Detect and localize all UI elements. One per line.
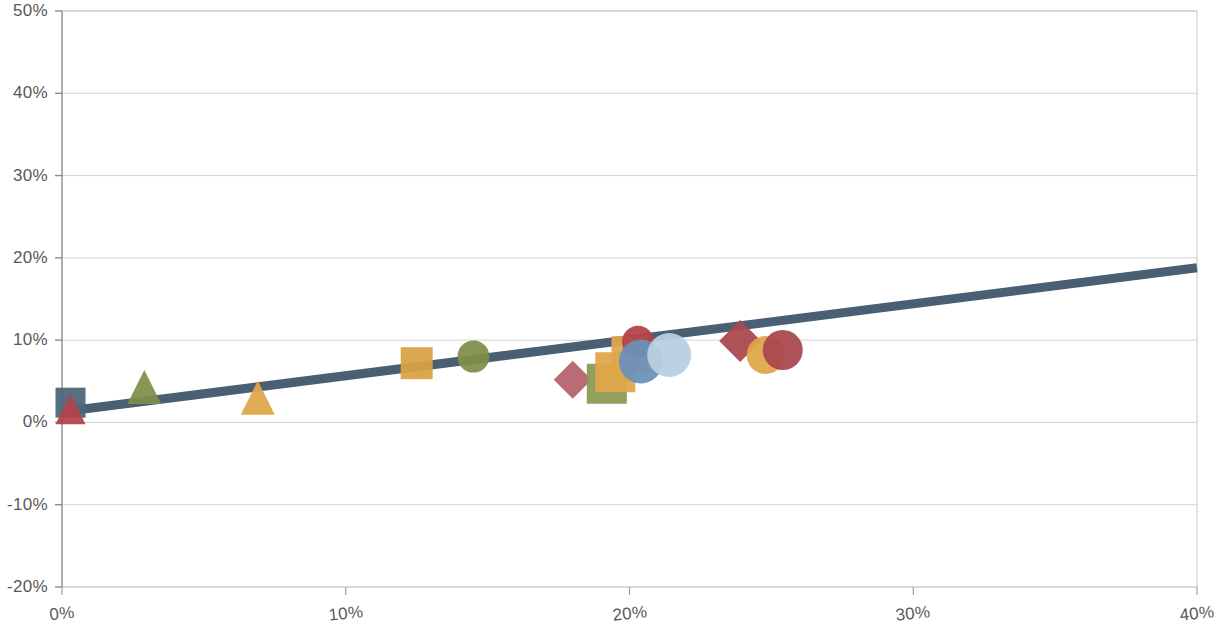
y-axis-label: 30% xyxy=(0,166,48,186)
x-axis-label: 40% xyxy=(1179,602,1216,626)
data-point-circle xyxy=(457,341,489,373)
x-axis-label: 10% xyxy=(327,602,364,626)
x-axis-label: 30% xyxy=(895,602,932,626)
data-point-diamond xyxy=(554,361,592,399)
scatter-chart: -20%-10%0%10%20%30%40%50% 0%10%20%30%40% xyxy=(0,0,1222,628)
x-axis-label: 0% xyxy=(48,603,75,626)
plot-canvas xyxy=(0,0,1222,628)
gridlines xyxy=(62,11,1197,587)
y-axis-label: 10% xyxy=(0,330,48,350)
data-point-square xyxy=(401,347,433,379)
y-axis-label: -10% xyxy=(0,495,48,515)
y-axis-label: 40% xyxy=(0,83,48,103)
y-axis-label: 50% xyxy=(0,1,48,21)
axes xyxy=(62,11,1197,587)
data-point-triangle xyxy=(127,370,161,404)
data-point-circle xyxy=(647,333,691,377)
y-axis-label: 20% xyxy=(0,248,48,268)
y-axis-label: 0% xyxy=(0,412,48,432)
tick-marks xyxy=(55,11,1197,595)
data-point-circle xyxy=(763,330,803,370)
y-axis-label: -20% xyxy=(0,577,48,597)
x-axis-label: 20% xyxy=(611,602,648,626)
